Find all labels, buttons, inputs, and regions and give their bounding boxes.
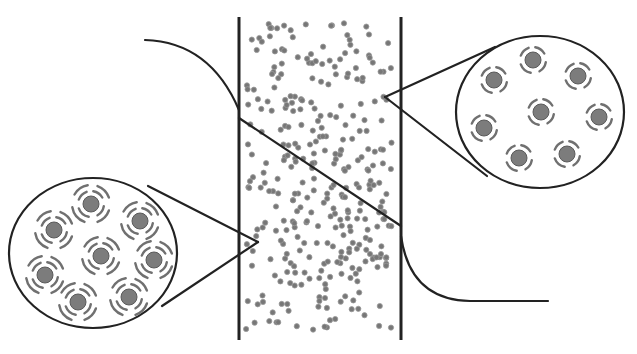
particle	[377, 180, 382, 185]
particle	[328, 214, 333, 219]
particle	[260, 299, 265, 304]
particle	[307, 276, 312, 281]
particle	[379, 118, 384, 123]
particle	[328, 113, 333, 118]
particle	[325, 259, 330, 264]
particle	[292, 264, 297, 269]
particle	[331, 206, 336, 211]
particle	[321, 44, 326, 49]
particle	[307, 142, 312, 147]
particle	[355, 216, 360, 221]
particle	[357, 267, 362, 272]
particle	[302, 240, 307, 245]
magnifier-left	[9, 178, 258, 328]
particle	[289, 164, 294, 169]
particle	[354, 246, 359, 251]
particle	[293, 270, 298, 275]
particle	[263, 220, 268, 225]
particle	[372, 149, 377, 154]
particle	[298, 107, 303, 112]
particle	[349, 307, 354, 312]
particle	[345, 216, 350, 221]
particle	[294, 324, 299, 329]
particle	[363, 217, 368, 222]
particle	[310, 128, 315, 133]
particle	[258, 185, 263, 190]
particle	[341, 233, 346, 238]
particle	[345, 71, 350, 76]
particle	[320, 61, 325, 66]
solvated-particle	[82, 237, 119, 274]
particle	[388, 166, 393, 171]
particle	[343, 122, 348, 127]
particle	[289, 100, 294, 105]
particle	[267, 319, 272, 324]
particle	[348, 42, 353, 47]
particle	[305, 195, 310, 200]
solvated-particle	[135, 241, 172, 278]
particle	[259, 106, 264, 111]
particle	[279, 61, 284, 66]
particle	[273, 228, 278, 233]
particle	[311, 327, 316, 332]
particle	[339, 271, 344, 276]
particle	[374, 255, 379, 260]
particle	[322, 295, 327, 300]
particle	[260, 293, 265, 298]
particle	[307, 255, 312, 260]
particle	[375, 265, 380, 270]
particle	[323, 282, 328, 287]
particle	[282, 48, 287, 53]
particle	[370, 60, 375, 65]
particle	[343, 256, 348, 261]
particle	[367, 55, 372, 60]
particle	[350, 240, 355, 245]
particle	[339, 147, 344, 152]
particle	[322, 148, 327, 153]
solvated-particle	[587, 104, 612, 130]
solvated-particle	[72, 185, 109, 222]
particle	[327, 318, 332, 323]
particle	[309, 210, 314, 215]
right-curve	[401, 236, 548, 301]
particle	[317, 276, 322, 281]
particle	[285, 269, 290, 274]
particle	[244, 242, 249, 247]
particle	[320, 134, 325, 139]
particle	[291, 108, 296, 113]
particle	[364, 128, 369, 133]
particle	[355, 279, 360, 284]
particle	[338, 57, 343, 62]
column-diagram	[0, 0, 637, 354]
particle	[323, 287, 328, 292]
particle	[255, 97, 260, 102]
particle	[375, 224, 380, 229]
particle	[343, 294, 348, 299]
particle	[275, 176, 280, 181]
particle	[379, 244, 384, 249]
particle	[249, 152, 254, 157]
particle	[355, 77, 360, 82]
particle	[338, 254, 343, 259]
particle	[288, 94, 293, 99]
particle	[388, 325, 393, 330]
particle	[359, 155, 364, 160]
particle	[269, 108, 274, 113]
particle	[282, 23, 287, 28]
particle	[345, 33, 350, 38]
particle	[303, 22, 308, 27]
particle	[315, 224, 320, 229]
particle	[348, 229, 353, 234]
particle	[380, 161, 385, 166]
particle	[273, 204, 278, 209]
particle	[297, 248, 302, 253]
particle	[252, 320, 257, 325]
particle	[363, 259, 368, 264]
particle	[389, 224, 394, 229]
particle	[278, 238, 283, 243]
solvated-particle	[121, 202, 158, 239]
particle	[251, 87, 256, 92]
particle	[350, 136, 355, 141]
particle	[342, 195, 347, 200]
particle	[276, 320, 281, 325]
